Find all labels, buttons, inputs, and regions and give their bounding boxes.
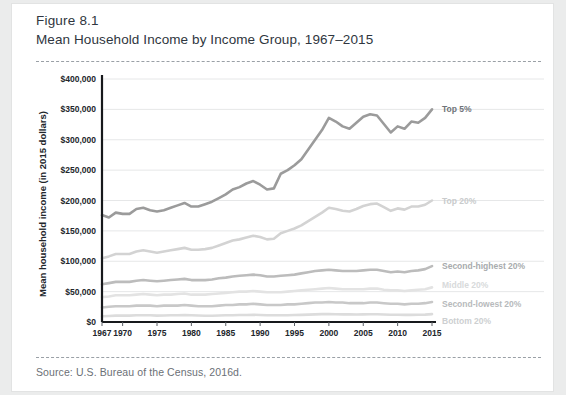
y-tick-label: $350,000: [34, 104, 96, 114]
x-tick-label: 2015: [412, 328, 452, 338]
figure-card: Figure 8.1 Mean Household Income by Inco…: [12, 4, 553, 391]
y-tick-label: $200,000: [34, 196, 96, 206]
y-tick-label: $50,000: [34, 287, 96, 297]
y-tick-label: $0: [34, 317, 96, 327]
series-label: Middle 20%: [442, 280, 488, 290]
y-tick-label: $100,000: [34, 256, 96, 266]
chart-plot-area: $0$50,000$100,000$150,000$200,000$250,00…: [12, 4, 553, 391]
series-line: [102, 302, 432, 307]
y-tick-label: $400,000: [34, 74, 96, 84]
series-label: Second-highest 20%: [442, 261, 525, 271]
series-line: [102, 314, 432, 316]
series-label: Top 5%: [442, 104, 472, 114]
y-tick-label: $300,000: [34, 135, 96, 145]
y-tick-label: $150,000: [34, 226, 96, 236]
series-line: [102, 109, 432, 217]
y-tick-label: $250,000: [34, 165, 96, 175]
series-label: Second-lowest 20%: [442, 299, 521, 309]
series-line: [102, 266, 432, 284]
series-label: Bottom 20%: [442, 316, 491, 326]
series-line: [102, 287, 432, 297]
series-label: Top 20%: [442, 196, 476, 206]
